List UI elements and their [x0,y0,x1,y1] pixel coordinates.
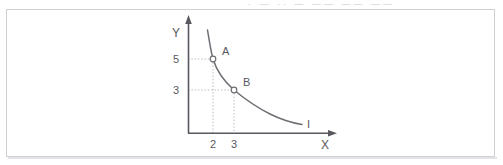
point-b-label: B [243,76,250,88]
figure-page: · — ·· — —— —— —— Y [0,0,503,165]
y-tick-label-3: 3 [173,84,179,96]
y-tick-label-5: 5 [173,53,179,65]
point-a-marker [210,56,216,62]
point-a-label: A [222,45,230,57]
x-axis-arrowhead [328,130,337,137]
x-axis-label: X [321,138,329,152]
y-axis-arrowhead [185,15,192,24]
x-tick-label-3: 3 [231,138,237,150]
x-tick-label-2: 2 [210,138,216,150]
indifference-curve-chart: Y X 5 3 2 3 A B I [160,10,360,155]
curve-label-i: I [307,118,310,130]
y-axis-label: Y [172,26,180,40]
scan-artifact-text: · — ·· — —— —— —— [248,0,438,5]
frame-shadow [8,157,497,159]
point-b-marker [231,87,237,93]
